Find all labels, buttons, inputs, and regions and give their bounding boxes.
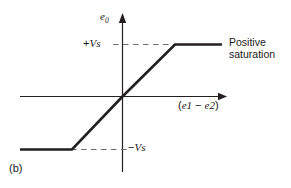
positive-level-subscript: s: [96, 37, 100, 49]
negative-level-subscript: s: [141, 141, 145, 153]
positive-saturation-level-label: +Vs: [83, 37, 100, 50]
transfer-characteristic-plot: [0, 0, 291, 188]
panel-label: (b): [9, 162, 22, 175]
figure-panel-b: e0 +Vs −Vs (e1 − e2) Positivesaturation …: [0, 0, 291, 188]
x-axis-arrowhead-icon: [218, 93, 227, 100]
positive-saturation-line-2: saturation: [229, 48, 275, 60]
negative-saturation-level-label: −Vs: [128, 141, 145, 154]
x-axis-label-minus: −: [192, 99, 205, 111]
positive-saturation-annotation: Positivesaturation: [229, 36, 275, 60]
x-axis-label-close-paren: ): [215, 99, 219, 111]
y-axis-label-subscript: 0: [105, 16, 109, 25]
positive-saturation-line-1: Positive: [229, 36, 266, 48]
y-axis-label: e0: [100, 10, 109, 26]
y-axis-arrowhead-icon: [119, 13, 126, 23]
x-axis-label: (e1 − e2): [178, 99, 219, 112]
